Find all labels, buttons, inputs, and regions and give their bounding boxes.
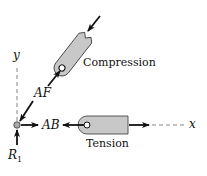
tension-label: Tension [86,138,129,149]
r1-subscript: 1 [17,155,22,164]
x-axis-label: x [189,118,196,130]
af-label: AF [34,87,51,99]
compression-label: Compression [83,57,156,68]
r1-base: R [8,148,17,162]
r1-label: R1 [8,149,22,164]
ab-label: AB [42,119,59,131]
y-axis-label: y [13,49,20,61]
pin-joint [14,122,20,128]
tension-hole [84,122,90,128]
compression-arrow-top [88,16,100,31]
compression-arrow-bottom [48,71,60,86]
compression-member [51,30,94,79]
free-body-diagram: y x AF AB R1 Compression Tension [0,0,207,176]
af-force-arrow [20,101,33,121]
